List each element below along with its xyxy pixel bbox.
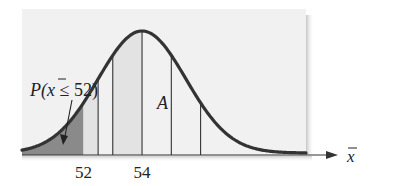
panel-shadow-bottom [22,156,312,162]
prob-suffix: ≤ 52) [55,80,98,101]
x-axis-label: x [346,147,357,166]
region-a-label: A [156,93,169,113]
x-tick-label-52: 52 [75,163,92,182]
x-axis-label-text: x [346,147,355,166]
normal-distribution-figure: 5254 x A P(x ≤ 52) [0,0,401,186]
x-tick-labels: 5254 [75,163,151,182]
x-axis-arrowhead [326,151,338,159]
probability-label: P(x ≤ 52) [29,80,98,101]
x-tick-label-54: 54 [134,163,152,182]
prob-var: x [46,80,55,100]
prob-prefix: P( [29,80,48,101]
panel-shadow-right [306,15,314,155]
